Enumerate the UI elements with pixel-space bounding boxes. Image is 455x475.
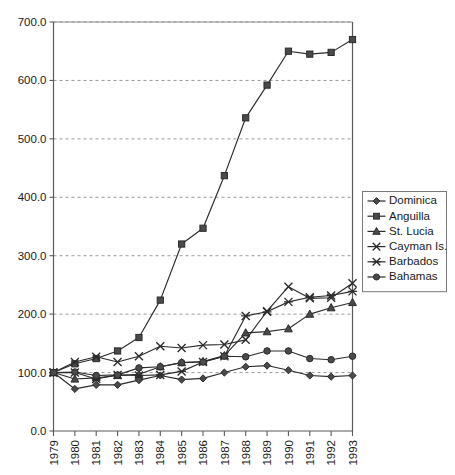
circle-marker — [285, 348, 292, 355]
y-tick-label: 200.0 — [18, 308, 47, 320]
square-marker — [179, 241, 185, 247]
x-tick-label: 1985 — [176, 440, 188, 466]
y-tick-label: 500.0 — [18, 133, 47, 145]
series-st-lucia — [50, 298, 357, 382]
series-anguilla — [50, 36, 355, 375]
y-tick-label: 600.0 — [18, 74, 47, 86]
star-marker — [177, 367, 186, 375]
x-tick-label: 1983 — [133, 440, 145, 466]
diamond-marker — [328, 373, 335, 380]
cross-marker — [135, 352, 143, 360]
circle-marker — [328, 356, 335, 363]
y-tick-label: 0.0 — [31, 425, 47, 437]
star-marker — [284, 298, 293, 306]
square-marker — [285, 48, 291, 54]
circle-marker — [93, 372, 100, 379]
y-tick-label: 400.0 — [18, 191, 47, 203]
y-axis-ticks: 0.0100.0200.0300.0400.0500.0600.0700.0 — [18, 16, 54, 437]
square-marker — [374, 213, 380, 219]
x-tick-label: 1989 — [261, 440, 273, 466]
x-axis-ticks: 1979198019811982198319841985198619871988… — [48, 431, 359, 466]
x-tick-label: 1980 — [69, 440, 81, 466]
series-barbados — [49, 287, 357, 383]
cross-marker — [242, 336, 250, 344]
legend-item-label: Dominica — [389, 194, 438, 206]
legend-item-label: Barbados — [389, 255, 438, 267]
diamond-marker — [285, 367, 292, 374]
x-tick-label: 1984 — [154, 439, 166, 465]
diamond-marker — [114, 381, 121, 388]
diamond-marker — [263, 362, 270, 369]
star-marker — [263, 308, 272, 316]
x-tick-label: 1988 — [240, 440, 252, 466]
x-tick-label: 1990 — [283, 440, 295, 466]
triangle-marker — [285, 325, 293, 332]
star-marker — [305, 293, 314, 301]
x-tick-label: 1993 — [347, 440, 359, 466]
series-group — [49, 36, 357, 392]
circle-marker — [242, 354, 249, 361]
circle-marker — [373, 274, 379, 280]
circle-marker — [114, 372, 121, 379]
x-tick-label: 1981 — [90, 440, 102, 466]
y-tick-label: 300.0 — [18, 250, 47, 262]
circle-marker — [200, 359, 207, 366]
circle-marker — [221, 353, 228, 360]
x-tick-label: 1979 — [48, 440, 60, 466]
square-marker — [157, 297, 163, 303]
square-marker — [328, 49, 334, 55]
x-tick-label: 1982 — [112, 440, 124, 466]
legend-item-label: Cayman Is. — [389, 240, 447, 252]
diamond-marker — [199, 375, 206, 382]
legend-item-label: St. Lucia — [389, 225, 434, 237]
square-marker — [264, 82, 270, 88]
circle-marker — [178, 359, 185, 366]
x-tick-label: 1986 — [197, 440, 209, 466]
circle-marker — [307, 355, 314, 362]
chart-legend: DominicaAnguillaSt. LuciaCayman Is.Barba… — [363, 192, 448, 292]
chart-container: 0.0100.0200.0300.0400.0500.0600.0700.0 1… — [0, 0, 455, 475]
square-marker — [200, 225, 206, 231]
cross-marker — [284, 283, 292, 291]
circle-marker — [349, 353, 356, 360]
x-tick-label: 1987 — [219, 440, 231, 466]
square-marker — [114, 348, 120, 354]
gridlines-group — [54, 22, 353, 373]
diamond-marker — [221, 369, 228, 376]
diamond-marker — [242, 363, 249, 370]
circle-marker — [136, 365, 143, 372]
circle-marker — [50, 369, 57, 376]
star-marker — [241, 312, 250, 320]
x-tick-label: 1991 — [304, 440, 316, 466]
square-marker — [307, 51, 313, 57]
diamond-marker — [178, 376, 185, 383]
series-line — [54, 40, 353, 373]
square-marker — [221, 173, 227, 179]
circle-marker — [264, 348, 271, 355]
line-chart: 0.0100.0200.0300.0400.0500.0600.0700.0 1… — [0, 0, 455, 475]
series-line — [54, 291, 353, 379]
square-marker — [243, 115, 249, 121]
y-tick-label: 100.0 — [18, 367, 47, 379]
square-marker — [349, 36, 355, 42]
circle-marker — [157, 363, 164, 370]
legend-item-label: Anguilla — [389, 210, 431, 222]
square-marker — [136, 334, 142, 340]
cross-marker — [114, 358, 122, 366]
circle-marker — [72, 369, 79, 376]
legend-item-label: Bahamas — [389, 270, 438, 282]
triangle-marker — [349, 298, 357, 305]
y-tick-label: 700.0 — [18, 16, 47, 28]
x-tick-label: 1992 — [325, 440, 337, 466]
